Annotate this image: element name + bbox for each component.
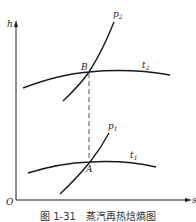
label-t2: t2 bbox=[142, 60, 150, 71]
origin-label: O bbox=[6, 197, 14, 207]
label-p1: p1 bbox=[108, 121, 118, 132]
x-axis-arrow-icon bbox=[185, 198, 192, 202]
label-p2: p2 bbox=[113, 9, 123, 20]
h-s-diagram: h s O p2 t2 p1 t1 B A bbox=[0, 0, 196, 222]
label-t1: t1 bbox=[130, 150, 137, 161]
y-axis-label: h bbox=[7, 19, 13, 29]
point-b-label: B bbox=[80, 62, 88, 72]
figure-caption: 图 1-31 蒸汽再热焓熵图 bbox=[0, 208, 196, 222]
isotherm-t2-curve bbox=[23, 71, 170, 88]
point-a-label: A bbox=[85, 164, 93, 174]
x-axis-label: s bbox=[192, 195, 196, 205]
y-axis-arrow-icon bbox=[14, 20, 18, 27]
